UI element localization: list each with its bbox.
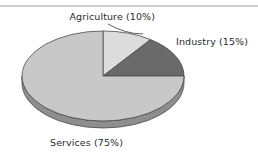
pie-slices-group	[22, 31, 184, 121]
slice-label-industry: Industry (15%)	[176, 36, 248, 47]
slice-label-agriculture: Agriculture (10%)	[70, 11, 156, 22]
pie-chart-svg: Agriculture (10%) Industry (15%) Service…	[0, 0, 258, 157]
pie-chart-figure: Agriculture (10%) Industry (15%) Service…	[0, 0, 258, 157]
slice-label-services: Services (75%)	[50, 137, 123, 148]
